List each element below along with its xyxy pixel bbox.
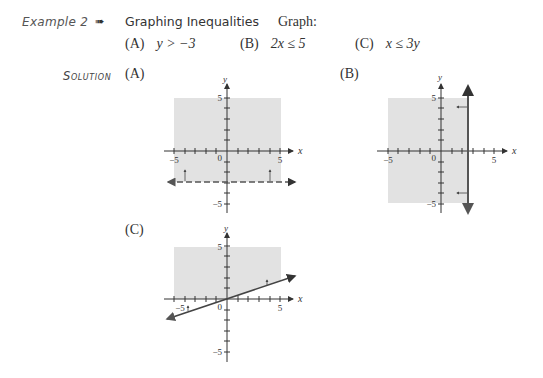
svg-text:−5: −5 <box>426 199 436 209</box>
svg-text:y: y <box>437 72 442 82</box>
svg-text:0: 0 <box>218 153 223 163</box>
svg-text:x: x <box>511 145 517 156</box>
graph-a: y x 5 −5 0 5 −5 y x 5 −5 0 5 −5 <box>0 0 543 378</box>
graph-c-plot: y x 5 −5 0 5 −5 <box>164 223 303 362</box>
svg-text:y: y <box>222 74 227 84</box>
svg-text:0: 0 <box>218 302 223 312</box>
svg-text:0: 0 <box>432 153 437 163</box>
svg-text:−5: −5 <box>383 155 393 165</box>
svg-text:5: 5 <box>492 155 497 165</box>
svg-text:5: 5 <box>218 242 223 252</box>
graph-a-plot: y x 5 −5 0 5 −5 <box>164 74 303 213</box>
graph-b-plot: y x 5 −5 0 5 −5 <box>377 72 517 213</box>
svg-text:−5: −5 <box>169 155 179 165</box>
svg-text:−5: −5 <box>175 303 185 313</box>
svg-text:−5: −5 <box>212 199 222 209</box>
svg-text:x: x <box>297 293 303 304</box>
svg-text:5: 5 <box>278 303 283 313</box>
svg-text:x: x <box>297 145 303 156</box>
svg-text:5: 5 <box>432 93 437 103</box>
svg-text:y: y <box>223 223 228 233</box>
svg-text:5: 5 <box>218 93 223 103</box>
svg-text:−5: −5 <box>212 347 222 357</box>
svg-text:5: 5 <box>278 155 283 165</box>
